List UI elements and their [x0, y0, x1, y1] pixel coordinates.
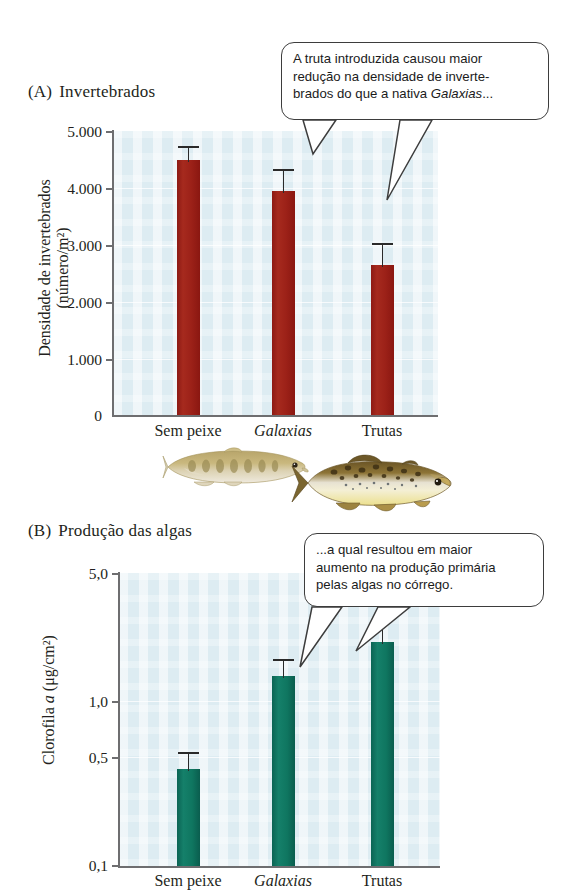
panel-b-tick-label-1-0: 1,0 — [30, 693, 108, 711]
panel-b-callout-tails — [290, 605, 470, 685]
panel-b-title-text: Produção das algas — [58, 521, 192, 540]
panel-a-tick-label-5000: 5.000 — [16, 123, 102, 141]
panel-b-errorbar-cap-sem-peixe — [178, 752, 199, 754]
panel-b-tick-0-5 — [112, 757, 119, 759]
panel-a-errorbar-line-trutas — [382, 243, 384, 267]
panel-b-tick-label-0-1: 0,1 — [30, 857, 108, 875]
panel-b-category-label-trutas: Trutas — [332, 872, 432, 890]
panel-a-y-axis-title: Densidade de invertebrados (número/m²) — [36, 118, 72, 418]
panel-b-title: (B)Produção das algas — [28, 521, 192, 541]
panel-a-tick-1000 — [106, 359, 113, 361]
panel-a-tick-label-0: 0 — [16, 407, 102, 425]
panel-b-tick-5-0 — [112, 573, 119, 575]
panel-a-title-text: Invertebrados — [59, 82, 155, 101]
panel-a-x-axis-line — [112, 415, 438, 417]
panel-b-tick-1-0 — [112, 701, 119, 703]
panel-a-tick-5000 — [106, 131, 113, 133]
panel-a-tick-label-3000: 3.000 — [16, 237, 102, 255]
panel-a-y-axis-line — [112, 130, 114, 416]
panel-b-errorbar-line-sem-peixe — [188, 752, 190, 771]
panel-a-tick-4000 — [106, 188, 113, 190]
panel-a-errorbar-cap-sem-peixe — [178, 146, 199, 148]
panel-a-callout-line3-italic: Galaxias — [431, 86, 482, 101]
panel-a-bar-sem-peixe — [177, 160, 200, 415]
panel-a-callout-tail-right — [387, 120, 432, 200]
panel-a-tick-2000 — [106, 302, 113, 304]
panel-a-bar-trutas — [371, 265, 394, 415]
panel-b-errorbar-line-galaxias — [283, 659, 285, 678]
panel-b-bar-sem-peixe — [177, 769, 200, 866]
panel-b-callout-line3: pelas algas no córrego. — [316, 576, 533, 594]
panel-a-callout-line1: A truta introduzida causou maior — [293, 50, 538, 68]
panel-a-callout-box: A truta introduzida causou maior redução… — [281, 42, 549, 120]
brown-trout-fish-illustration — [290, 452, 458, 514]
panel-a-y-axis-title-line1: Densidade de invertebrados — [36, 179, 53, 357]
panel-b-x-axis-line — [118, 866, 440, 868]
panel-a-tick-label-4000: 4.000 — [16, 180, 102, 198]
panel-a-errorbar-cap-trutas — [372, 243, 393, 245]
panel-b-tick-label-0-5: 0,5 — [30, 749, 108, 767]
panel-b-callout-tail-right — [356, 607, 410, 651]
panel-a-tick-label-2000: 2.000 — [16, 294, 102, 312]
panel-a-callout-line3-post: ... — [482, 86, 493, 101]
panel-b-callout-line2: aumento na produção primária — [316, 559, 533, 577]
panel-a-callout-tail-left — [303, 120, 336, 154]
panel-a-tick-label-1000: 1.000 — [16, 351, 102, 369]
panel-a-y-axis-title-line2: (número/m²) — [54, 118, 72, 418]
panel-a-callout-line3: brados do que a nativa Galaxias... — [293, 85, 538, 103]
panel-b-callout-box: ...a qual resultou em maior aumento na p… — [304, 533, 544, 607]
panel-a-category-label-trutas: Trutas — [332, 422, 432, 440]
panel-a-title: (A)Invertebrados — [28, 82, 155, 102]
panel-b-tick-0-1 — [112, 865, 119, 867]
panel-a-errorbar-line-sem-peixe — [188, 146, 190, 162]
panel-a-callout-line2: redução na densidade de inverte- — [293, 68, 538, 86]
panel-b-category-label-galaxias: Galaxias — [228, 872, 338, 890]
brown-trout-fish-icon — [290, 452, 458, 514]
panel-a-tick-3000 — [106, 245, 113, 247]
panel-b-tick-label-5-0: 5,0 — [30, 565, 108, 583]
panel-b-tag: (B) — [28, 521, 51, 540]
panel-a-callout-tails — [280, 118, 460, 228]
panel-a-callout-line3-pre: brados do que a nativa — [293, 86, 431, 101]
panel-b-y-axis-line — [118, 572, 120, 867]
panel-b-bar-galaxias — [272, 676, 295, 866]
panel-a-tag: (A) — [28, 82, 52, 101]
panel-a-category-label-galaxias: Galaxias — [228, 422, 338, 440]
panel-b-callout-tail-left — [300, 607, 342, 667]
panel-b-y-axis-title-post: (μg/cm²) — [40, 635, 57, 695]
panel-b-callout-line1: ...a qual resultou em maior — [316, 541, 533, 559]
